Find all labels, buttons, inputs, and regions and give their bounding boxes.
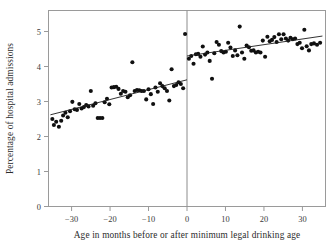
data-point: [272, 35, 276, 39]
data-point: [198, 55, 202, 59]
data-point: [100, 116, 104, 120]
data-point: [210, 77, 214, 81]
data-point: [235, 53, 239, 57]
x-axis-title: Age in months before or after minimum le…: [74, 230, 301, 240]
data-point: [130, 60, 134, 64]
data-point: [305, 44, 309, 48]
data-point: [307, 48, 311, 52]
data-point: [70, 100, 74, 104]
data-point: [183, 32, 187, 36]
data-point: [261, 39, 265, 43]
data-point: [238, 25, 242, 29]
scatter-plot-figure: −30−20−100102030Age in months before or …: [0, 0, 334, 243]
data-point: [258, 50, 262, 54]
data-point: [77, 102, 81, 106]
x-axis-tick-label: 30: [298, 215, 306, 224]
x-axis-tick-label: −10: [142, 215, 155, 224]
data-point: [66, 115, 70, 119]
fit-lines: [50, 36, 322, 115]
data-point: [156, 90, 160, 94]
x-axis-tick-label: −30: [65, 215, 78, 224]
data-point: [208, 59, 212, 63]
data-point: [59, 119, 63, 123]
y-axis-tick-label: 3: [37, 98, 41, 107]
series-below-mlda: [50, 32, 187, 129]
data-point: [231, 54, 235, 58]
y-axis-tick-label: 5: [37, 28, 41, 37]
data-point: [277, 32, 281, 36]
data-point: [300, 46, 304, 50]
x-axis-tick-label: 20: [260, 215, 268, 224]
data-point: [226, 41, 230, 45]
data-point: [279, 37, 283, 41]
data-point: [318, 41, 322, 45]
plot-canvas: −30−20−100102030Age in months before or …: [0, 0, 334, 243]
data-point: [170, 67, 174, 71]
data-point: [298, 41, 302, 45]
data-point: [282, 32, 286, 36]
y-axis-tick-label: 1: [37, 168, 41, 177]
data-point: [151, 102, 155, 106]
data-point: [181, 86, 185, 90]
data-point: [149, 92, 153, 96]
data-point: [191, 62, 195, 66]
data-point: [242, 57, 246, 61]
x-axis-tick-label: 0: [185, 215, 189, 224]
data-point: [165, 89, 169, 93]
data-point: [263, 55, 267, 59]
data-point: [201, 45, 205, 49]
data-point: [265, 35, 269, 39]
data-point: [217, 43, 221, 47]
data-point: [89, 89, 93, 93]
data-point: [144, 97, 148, 101]
y-axis-title: Percentage of hospital admissions: [5, 43, 15, 174]
data-point: [302, 28, 306, 32]
data-point: [123, 90, 127, 94]
x-axis-tick-label: 10: [221, 215, 229, 224]
data-point: [179, 82, 183, 86]
data-point: [167, 98, 171, 102]
data-point: [240, 50, 244, 54]
x-axis-tick-label: −20: [104, 215, 117, 224]
data-point: [116, 87, 120, 91]
y-axis-tick-label: 2: [37, 133, 41, 142]
data-point: [54, 120, 58, 124]
y-axis: 012345Percentage of hospital admissions: [5, 28, 49, 212]
data-point: [107, 102, 111, 106]
y-axis-tick-label: 4: [37, 63, 42, 72]
data-point: [57, 125, 61, 129]
data-point: [50, 117, 54, 121]
x-axis: −30−20−100102030Age in months before or …: [65, 207, 307, 240]
y-axis-tick-label: 0: [37, 203, 41, 212]
fit-below-mlda: [50, 80, 187, 115]
